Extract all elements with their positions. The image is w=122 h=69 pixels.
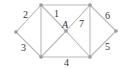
edge-bl-a [41, 31, 66, 57]
edge-l-tl [16, 5, 41, 32]
label-6: 6 [105, 10, 110, 21]
graph-diagram: 2 1 A 7 6 3 4 5 [0, 0, 122, 69]
labels: 2 1 A 7 6 3 4 5 [21, 8, 110, 68]
label-4: 4 [64, 57, 69, 68]
edge-a-tr [66, 5, 90, 31]
edge-a-br [66, 31, 90, 57]
node-bottom-right [88, 55, 92, 59]
node-bottom-left [39, 55, 43, 59]
node-top-right [88, 3, 92, 7]
node-left [14, 30, 18, 34]
label-2: 2 [23, 9, 28, 20]
edge-br-r [90, 31, 116, 57]
label-1: 1 [54, 8, 59, 19]
label-7: 7 [79, 18, 84, 29]
label-5: 5 [105, 41, 110, 52]
node-top-left [39, 3, 43, 7]
edge-l-bl [16, 32, 41, 57]
label-a: A [61, 19, 69, 30]
nodes [14, 3, 118, 59]
node-right [114, 29, 118, 33]
label-3: 3 [21, 42, 26, 53]
edge-tr-r [90, 5, 116, 31]
